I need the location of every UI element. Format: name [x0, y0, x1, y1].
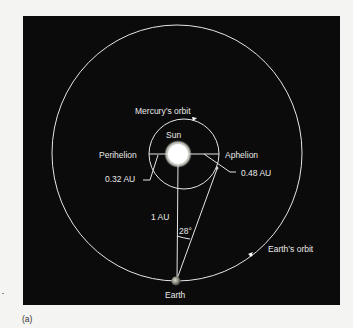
aphelion-label: Aphelion [225, 150, 258, 160]
perihelion-label: Perihelion [99, 150, 137, 160]
earth-icon [172, 277, 181, 286]
earth-orbit-arrow-dot [250, 254, 253, 257]
angle-label: 28° [179, 226, 192, 236]
panel-label: (a) [22, 314, 33, 324]
mercury-dot [216, 167, 219, 170]
perihelion-distance-label: 0.32 AU [105, 174, 135, 184]
mercury-orbit-label: Mercury’s orbit [135, 106, 191, 116]
mercury-elongation-diagram: Mercury’s orbit Sun Perihelion Aphelion … [0, 0, 353, 328]
earth-sun-distance-label: 1 AU [151, 212, 169, 222]
earth-label: Earth [165, 290, 186, 300]
aphelion-distance-label: 0.48 AU [241, 168, 271, 178]
earth-orbit-label: Earth’s orbit [268, 244, 314, 254]
sun-icon [168, 144, 188, 164]
sun-label: Sun [166, 130, 181, 140]
